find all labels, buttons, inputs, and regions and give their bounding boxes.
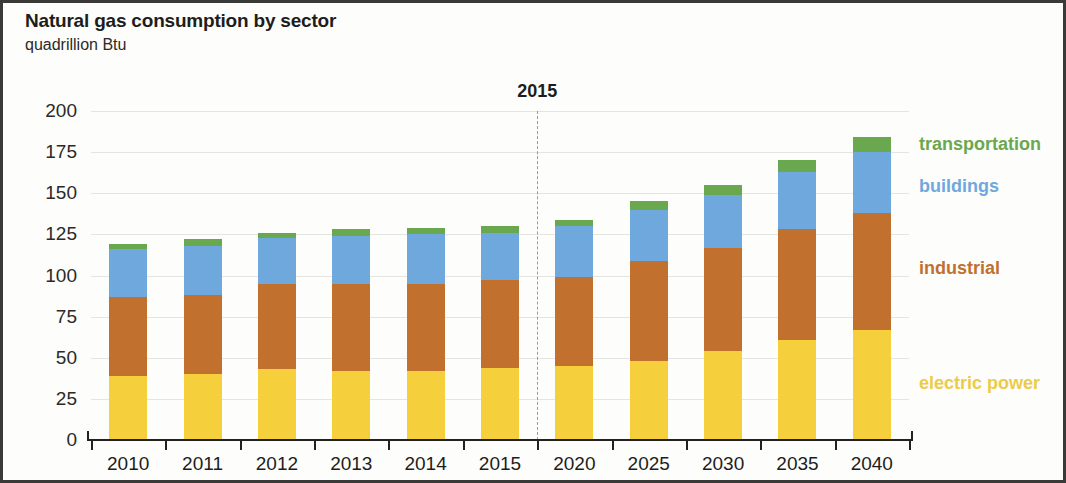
x-axis-tick-label: 2040 bbox=[837, 453, 907, 475]
bar-2012 bbox=[258, 111, 296, 440]
bar-2011 bbox=[184, 111, 222, 440]
bar-segment-electric-power bbox=[407, 371, 445, 440]
y-axis-tick-label: 100 bbox=[19, 265, 77, 287]
legend-item-electric-power: electric power bbox=[919, 373, 1040, 394]
bar-2013 bbox=[332, 111, 370, 440]
bar-segment-buildings bbox=[407, 234, 445, 283]
bar-segment-industrial bbox=[184, 295, 222, 374]
projection-divider bbox=[537, 111, 538, 440]
y-axis-tick-label: 50 bbox=[19, 347, 77, 369]
bar-segment-buildings bbox=[109, 249, 147, 297]
x-axis-tick-label: 2010 bbox=[93, 453, 163, 475]
x-axis-tick bbox=[91, 441, 93, 450]
bar-2025 bbox=[630, 111, 668, 440]
bar-segment-electric-power bbox=[109, 376, 147, 440]
y-axis-tick-label: 75 bbox=[19, 306, 77, 328]
x-axis-tick-label: 2012 bbox=[242, 453, 312, 475]
x-axis-tick-label: 2011 bbox=[168, 453, 238, 475]
bar-segment-transportation bbox=[407, 228, 445, 235]
chart-subtitle: quadrillion Btu bbox=[25, 36, 126, 54]
y-axis-tick-label: 25 bbox=[19, 388, 77, 410]
bar-segment-buildings bbox=[704, 195, 742, 248]
bar-2030 bbox=[704, 111, 742, 440]
chart-figure: Natural gas consumption by sector quadri… bbox=[0, 0, 1066, 483]
bar-segment-transportation bbox=[109, 244, 147, 249]
bar-segment-industrial bbox=[407, 284, 445, 371]
bar-segment-transportation bbox=[184, 239, 222, 246]
bar-segment-electric-power bbox=[853, 330, 891, 440]
bar-segment-electric-power bbox=[258, 369, 296, 440]
chart-title: Natural gas consumption by sector bbox=[25, 10, 336, 32]
bar-segment-transportation bbox=[258, 233, 296, 238]
bar-segment-buildings bbox=[853, 152, 891, 213]
bar-segment-buildings bbox=[184, 246, 222, 295]
x-axis-tick bbox=[909, 441, 911, 450]
bar-segment-industrial bbox=[332, 284, 370, 371]
y-axis-tick-label: 125 bbox=[19, 223, 77, 245]
bar-segment-transportation bbox=[630, 201, 668, 209]
bar-segment-electric-power bbox=[778, 340, 816, 440]
bar-2015 bbox=[481, 111, 519, 440]
x-axis-tick bbox=[835, 441, 837, 450]
x-axis-tick bbox=[537, 441, 539, 450]
x-axis-tick bbox=[686, 441, 688, 450]
bar-2035 bbox=[778, 111, 816, 440]
legend-item-transportation: transportation bbox=[919, 134, 1041, 155]
bar-segment-industrial bbox=[258, 284, 296, 370]
bar-segment-industrial bbox=[555, 277, 593, 366]
x-axis-line bbox=[87, 439, 913, 441]
bar-segment-transportation bbox=[481, 226, 519, 233]
bar-segment-buildings bbox=[258, 238, 296, 284]
bar-segment-transportation bbox=[704, 185, 742, 195]
bar-segment-buildings bbox=[332, 236, 370, 284]
bar-segment-electric-power bbox=[704, 351, 742, 440]
y-axis-tick-label: 150 bbox=[19, 182, 77, 204]
bar-segment-transportation bbox=[778, 160, 816, 172]
bar-segment-industrial bbox=[704, 248, 742, 352]
bar-segment-transportation bbox=[332, 229, 370, 236]
bar-segment-buildings bbox=[481, 233, 519, 281]
bar-segment-transportation bbox=[853, 137, 891, 152]
projection-year-label: 2015 bbox=[517, 81, 557, 102]
x-axis-left-cap bbox=[87, 431, 89, 441]
x-axis-right-cap bbox=[911, 431, 913, 441]
bar-segment-buildings bbox=[778, 172, 816, 230]
bar-segment-transportation bbox=[555, 220, 593, 227]
plot-area bbox=[91, 111, 909, 440]
bar-segment-industrial bbox=[853, 213, 891, 330]
x-axis-tick-label: 2013 bbox=[316, 453, 386, 475]
legend-item-buildings: buildings bbox=[919, 176, 999, 197]
x-axis-tick bbox=[240, 441, 242, 450]
bar-segment-industrial bbox=[481, 280, 519, 367]
bar-2014 bbox=[407, 111, 445, 440]
x-axis-tick-label: 2015 bbox=[465, 453, 535, 475]
x-axis-tick-label: 2025 bbox=[614, 453, 684, 475]
bar-segment-electric-power bbox=[481, 368, 519, 440]
y-axis-tick-label: 0 bbox=[19, 429, 77, 451]
y-axis-tick-label: 200 bbox=[19, 100, 77, 122]
bar-segment-electric-power bbox=[555, 366, 593, 440]
bar-segment-buildings bbox=[630, 210, 668, 261]
x-axis-tick bbox=[760, 441, 762, 450]
bar-2020 bbox=[555, 111, 593, 440]
x-axis-tick bbox=[388, 441, 390, 450]
bar-segment-industrial bbox=[109, 297, 147, 376]
y-axis-tick-label: 175 bbox=[19, 141, 77, 163]
x-axis-tick-label: 2014 bbox=[391, 453, 461, 475]
bar-2010 bbox=[109, 111, 147, 440]
bar-segment-electric-power bbox=[630, 361, 668, 440]
bar-segment-electric-power bbox=[184, 374, 222, 440]
bar-segment-industrial bbox=[630, 261, 668, 361]
bar-segment-electric-power bbox=[332, 371, 370, 440]
bar-segment-buildings bbox=[555, 226, 593, 277]
x-axis-tick-label: 2035 bbox=[762, 453, 832, 475]
x-axis-tick bbox=[612, 441, 614, 450]
bar-2040 bbox=[853, 111, 891, 440]
x-axis-tick bbox=[314, 441, 316, 450]
x-axis-tick bbox=[463, 441, 465, 450]
x-axis-tick bbox=[165, 441, 167, 450]
x-axis-tick-label: 2020 bbox=[539, 453, 609, 475]
x-axis-tick-label: 2030 bbox=[688, 453, 758, 475]
bar-segment-industrial bbox=[778, 229, 816, 339]
legend-item-industrial: industrial bbox=[919, 258, 1000, 279]
